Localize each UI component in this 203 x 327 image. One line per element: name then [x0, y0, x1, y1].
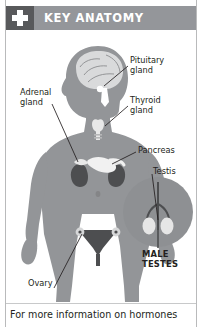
- label-thyroid-gland: Thyroid gland: [130, 96, 161, 115]
- key-anatomy-card: KEY ANATOMY: [0, 0, 203, 327]
- uterus-ovaries-organ: [76, 228, 121, 266]
- footer-note: For more information on hormones: [10, 309, 198, 321]
- label-male-testes-inset-caption: MALE TESTES: [142, 250, 178, 269]
- label-testis: Testis: [153, 167, 176, 177]
- label-ovary: Ovary: [28, 279, 53, 289]
- page-title: KEY ANATOMY: [44, 6, 144, 30]
- label-pituitary-gland: Pituitary gland: [130, 56, 164, 75]
- card-right-rule: [196, 0, 197, 327]
- navel-mark: [96, 191, 101, 197]
- footer-divider: [6, 303, 196, 304]
- medical-cross-icon: [6, 6, 34, 30]
- label-pancreas: Pancreas: [138, 146, 175, 156]
- label-adrenal-gland: Adrenal gland: [20, 88, 51, 107]
- card-header: KEY ANATOMY: [6, 6, 196, 30]
- cross-horizontal-bar: [12, 15, 28, 21]
- anatomy-illustration: Pituitary gland Thyroid gland Adrenal gl…: [6, 34, 196, 302]
